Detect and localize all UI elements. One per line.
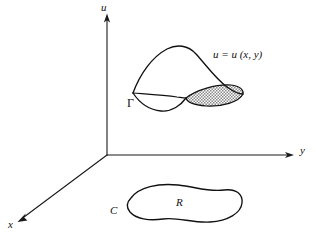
- axis-arrow-downleft-icon: [18, 213, 28, 222]
- figure-svg: [0, 0, 316, 236]
- curve-c-label: C: [110, 205, 117, 216]
- region-group: [127, 185, 242, 223]
- gamma-boundary-label: Γ: [127, 97, 134, 109]
- region-label: R: [176, 197, 183, 208]
- surface-equation-label: u = u (x, y): [213, 49, 262, 60]
- y-axis-label: y: [300, 145, 305, 156]
- hatched-lens: [186, 85, 243, 106]
- region-boundary-curve: [127, 185, 242, 223]
- figure-container: u y x u = u (x, y) Γ R C: [0, 0, 316, 236]
- x-axis-label: x: [8, 219, 13, 230]
- x-axis-line: [24, 155, 107, 217]
- surface-front-curve: [133, 93, 186, 111]
- axis-group: [18, 14, 295, 223]
- u-axis-label: u: [101, 2, 107, 13]
- surface-fold-line: [133, 93, 186, 98]
